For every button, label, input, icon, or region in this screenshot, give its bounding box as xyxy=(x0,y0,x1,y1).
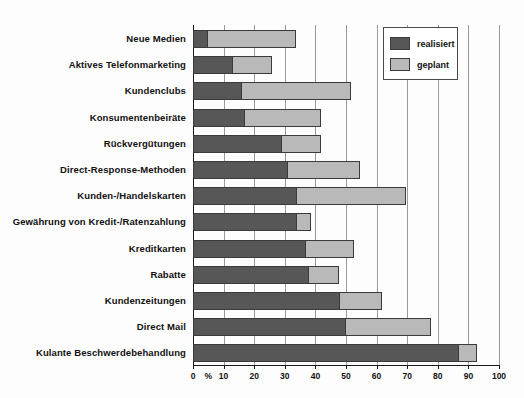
bar-segment-geplant xyxy=(296,187,406,205)
bar-row xyxy=(193,30,296,48)
category-label: Kundenclubs xyxy=(0,82,186,100)
bar-segment-geplant xyxy=(281,135,321,153)
light-gray-swatch-icon xyxy=(390,58,410,71)
x-tick-0 xyxy=(193,365,194,369)
bar-segment-geplant xyxy=(339,292,382,310)
bar-segment-realisiert xyxy=(193,292,340,310)
x-tick-50 xyxy=(346,365,347,369)
bar-row xyxy=(193,82,351,100)
bar-segment-realisiert xyxy=(193,344,459,362)
category-label: Direct-Response-Methoden xyxy=(0,161,186,179)
legend-item-realisiert: realisiert xyxy=(390,34,451,53)
category-axis-labels: Neue MedienAktives TelefonmarketingKunde… xyxy=(0,25,186,365)
legend-label-geplant: geplant xyxy=(417,60,449,70)
bar-segment-geplant xyxy=(305,240,354,258)
bar-row xyxy=(193,240,354,258)
bar-segment-realisiert xyxy=(193,109,245,127)
x-tick-40 xyxy=(315,365,316,369)
bar-segment-geplant xyxy=(207,30,296,48)
bar-segment-realisiert xyxy=(193,30,208,48)
bar-segment-geplant xyxy=(241,82,351,100)
category-label: Neue Medien xyxy=(0,30,186,48)
category-label: Kreditkarten xyxy=(0,240,186,258)
x-tick-60 xyxy=(377,365,378,369)
bar-segment-realisiert xyxy=(193,266,309,284)
bar-segment-realisiert xyxy=(193,56,233,74)
x-tick-90 xyxy=(468,365,469,369)
bar-segment-geplant xyxy=(308,266,339,284)
bar-segment-geplant xyxy=(287,161,360,179)
x-tick-label-80: 80 xyxy=(433,371,442,381)
x-tick-label-50: 50 xyxy=(341,371,350,381)
bar-segment-geplant xyxy=(296,213,311,231)
x-tick-label-10: 10 xyxy=(219,371,228,381)
x-tick-30 xyxy=(285,365,286,369)
x-tick-label-30: 30 xyxy=(280,371,289,381)
bar-row xyxy=(193,109,321,127)
percent-axis-label: % xyxy=(205,371,213,381)
bar-segment-realisiert xyxy=(193,135,282,153)
bar-row xyxy=(193,266,339,284)
category-label: Kundenzeitungen xyxy=(0,292,186,310)
bar-row xyxy=(193,213,311,231)
legend-label-realisiert: realisiert xyxy=(417,39,455,49)
bar-row xyxy=(193,187,406,205)
x-tick-label-100: 100 xyxy=(492,371,506,381)
dark-gray-swatch-icon xyxy=(390,37,410,50)
bar-segment-realisiert xyxy=(193,161,288,179)
x-tick-label-20: 20 xyxy=(249,371,258,381)
stacked-bar-chart: Neue MedienAktives TelefonmarketingKunde… xyxy=(0,0,524,398)
x-tick-80 xyxy=(438,365,439,369)
category-label: Gewährung von Kredit-/Ratenzahlung xyxy=(0,213,186,231)
bar-segment-geplant xyxy=(244,109,321,127)
category-label: Aktives Telefonmarketing xyxy=(0,56,186,74)
bar-segment-realisiert xyxy=(193,240,306,258)
bar-segment-realisiert xyxy=(193,213,297,231)
x-tick-label-90: 90 xyxy=(464,371,473,381)
category-label: Kulante Beschwerdebehandlung xyxy=(0,344,186,362)
x-tick-10 xyxy=(224,365,225,369)
x-tick-label-60: 60 xyxy=(372,371,381,381)
bar-row xyxy=(193,344,477,362)
x-tick-70 xyxy=(407,365,408,369)
bar-segment-geplant xyxy=(345,318,431,336)
bar-row xyxy=(193,161,360,179)
category-label: Konsumentenbeiräte xyxy=(0,109,186,127)
gridline-100 xyxy=(499,25,500,365)
legend-item-geplant: geplant xyxy=(390,55,451,74)
x-tick-label-40: 40 xyxy=(311,371,320,381)
category-label: Rückvergütungen xyxy=(0,135,186,153)
bar-row xyxy=(193,292,382,310)
category-label: Rabatte xyxy=(0,266,186,284)
x-tick-100 xyxy=(499,365,500,369)
category-label: Kunden-/Handelskarten xyxy=(0,187,186,205)
bar-segment-geplant xyxy=(458,344,476,362)
chart-legend: realisiert geplant xyxy=(383,27,458,80)
bar-row xyxy=(193,56,272,74)
bar-segment-realisiert xyxy=(193,187,297,205)
x-tick-20 xyxy=(254,365,255,369)
bar-segment-realisiert xyxy=(193,82,242,100)
category-label: Direct Mail xyxy=(0,318,186,336)
bar-segment-geplant xyxy=(232,56,272,74)
x-tick-label-0: 0 xyxy=(191,371,196,381)
bar-row xyxy=(193,135,321,153)
bar-row xyxy=(193,318,431,336)
bar-segment-realisiert xyxy=(193,318,346,336)
x-tick-label-70: 70 xyxy=(402,371,411,381)
